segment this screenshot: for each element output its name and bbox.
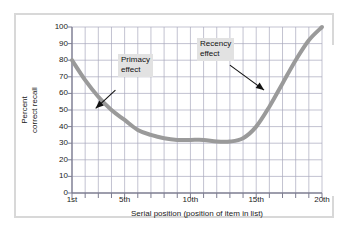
annotation-recency-line1: Recency: [200, 39, 231, 48]
x-tick-label: 20th: [314, 196, 330, 204]
y-tick-label: 100: [46, 23, 68, 31]
y-tick-label: 90: [46, 40, 68, 48]
serial-position-figure: Percent correct recall 01020304050607080…: [0, 0, 360, 239]
y-axis-title-line2: correct recall: [30, 87, 39, 133]
y-tick-label: 80: [46, 56, 68, 64]
y-tick-label: 50: [46, 106, 68, 114]
y-axis-title-line1: Percent: [20, 96, 29, 124]
annotation-recency-line2: effect: [200, 49, 219, 58]
x-tick-label: 1st: [67, 196, 78, 204]
annotation-primacy-line2: effect: [121, 65, 140, 74]
figure-frame-top: [14, 13, 334, 15]
x-axis-tick-labels: 1st5th10th15th20th: [72, 196, 322, 210]
y-axis-title: Percent correct recall: [18, 74, 42, 146]
figure-frame-right-lower: [332, 196, 334, 218]
figure-frame-left: [14, 13, 16, 218]
x-tick-label: 10th: [183, 196, 199, 204]
x-tick-label: 15th: [248, 196, 264, 204]
y-axis-tick-labels: 0102030405060708090100: [44, 27, 68, 193]
y-tick-label: 30: [46, 139, 68, 147]
x-tick-label: 5th: [119, 196, 130, 204]
y-tick-label: 60: [46, 89, 68, 97]
y-tick-label: 70: [46, 73, 68, 81]
y-tick-label: 10: [46, 172, 68, 180]
figure-frame-right-upper: [332, 13, 334, 45]
y-tick-label: 0: [46, 189, 68, 197]
y-tick-label: 40: [46, 123, 68, 131]
annotation-primacy-effect: Primacy effect: [118, 54, 153, 77]
annotation-recency-effect: Recency effect: [197, 38, 234, 61]
annotation-primacy-line1: Primacy: [121, 55, 150, 64]
y-tick-label: 20: [46, 156, 68, 164]
x-axis-title: Serial position (position of item in lis…: [72, 209, 322, 218]
